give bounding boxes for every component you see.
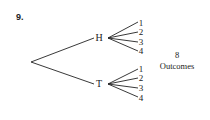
tree-labels: H1234T1234 xyxy=(95,18,143,103)
leaf-H-4: 4 xyxy=(139,46,144,56)
edge-root-H xyxy=(31,38,94,62)
leaf-T-2: 2 xyxy=(139,73,144,83)
outcomes-label: Outcomes xyxy=(160,61,194,71)
tree-edges xyxy=(31,22,138,97)
leaf-H-2: 2 xyxy=(139,27,144,37)
edge-H-1 xyxy=(108,22,138,38)
outcomes-count: 8 xyxy=(175,50,179,60)
leaf-T-4: 4 xyxy=(139,93,144,103)
node-H: H xyxy=(95,32,102,43)
edge-root-T xyxy=(31,62,94,84)
tree-diagram: H1234T1234 8 Outcomes xyxy=(0,0,210,120)
node-T: T xyxy=(96,78,102,89)
edge-T-2 xyxy=(108,78,138,84)
edge-H-2 xyxy=(108,32,138,38)
leaf-T-3: 3 xyxy=(139,83,144,93)
edge-T-1 xyxy=(108,69,138,84)
